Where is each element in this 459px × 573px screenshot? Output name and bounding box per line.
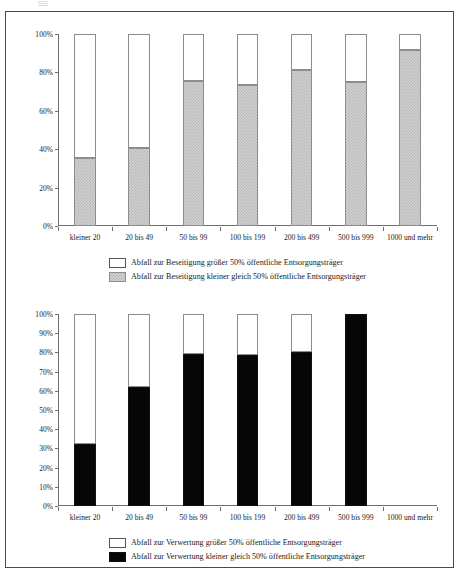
legend-item[interactable]: Abfall zur Beseitigung kleiner gleich 50…: [109, 270, 453, 283]
y-tick-label: 40%: [39, 145, 53, 154]
bar-slot[interactable]: [74, 34, 96, 226]
x-tick-mark: [383, 227, 384, 231]
bar-segment[interactable]: [183, 314, 205, 354]
bar-slot[interactable]: [128, 34, 150, 226]
x-tick-label: 1000 und mehr: [387, 233, 433, 242]
x-tick-label: 200 bis 499: [284, 233, 319, 242]
bar-slot[interactable]: [183, 34, 205, 226]
x-tick-mark: [220, 227, 221, 231]
x-tick-label: 20 bis 49: [125, 233, 153, 242]
legend-label: Abfall zur Verwertung größer 50% öffentl…: [131, 538, 342, 547]
page-scan-artifact: [38, 0, 48, 6]
bar-segment[interactable]: [128, 148, 150, 226]
stacked-bar[interactable]: [237, 314, 259, 506]
legend-swatch-black: [109, 552, 126, 562]
bar-slot[interactable]: [399, 34, 421, 226]
bar-segment[interactable]: [128, 34, 150, 148]
bar-slot[interactable]: [74, 314, 96, 506]
bar-slot[interactable]: [237, 34, 259, 226]
bar-segment[interactable]: [237, 34, 259, 85]
x-tick-label: 200 bis 499: [284, 513, 319, 522]
bar-segment[interactable]: [183, 34, 205, 81]
x-tick-label: 1000 und mehr: [387, 513, 433, 522]
bar-segment[interactable]: [237, 314, 259, 355]
x-tick-mark: [166, 227, 167, 231]
bar-slot[interactable]: [128, 314, 150, 506]
bar-segment[interactable]: [291, 70, 313, 226]
bar-slot[interactable]: [291, 314, 313, 506]
x-tick-label: 500 bis 999: [338, 233, 373, 242]
plot-area-verwertung: 0%10%20%30%40%50%60%70%80%90%100% kleine…: [58, 314, 437, 506]
stacked-bar[interactable]: [237, 34, 259, 226]
bar-slot[interactable]: [345, 314, 367, 506]
bar-slot[interactable]: [291, 34, 313, 226]
bar-segment[interactable]: [399, 50, 421, 226]
bar-group: [58, 314, 437, 506]
y-tick-mark: [55, 149, 59, 150]
y-tick-label: 50%: [39, 406, 53, 415]
legend-swatch-hatch: [109, 272, 126, 282]
x-tick-mark: [437, 227, 438, 231]
stacked-bar[interactable]: [291, 314, 313, 506]
legend-label: Abfall zur Beseitigung größer 50% öffent…: [131, 258, 343, 267]
x-tick-label: 20 bis 49: [125, 513, 153, 522]
bar-slot[interactable]: [345, 34, 367, 226]
stacked-bar[interactable]: [128, 34, 150, 226]
stacked-bar[interactable]: [183, 34, 205, 226]
y-tick-label: 70%: [39, 367, 53, 376]
bar-slot[interactable]: [237, 314, 259, 506]
bar-segment[interactable]: [183, 354, 205, 506]
plot-area-beseitigung: 0%20%40%60%80%100% kleiner 2020 bis 4950…: [58, 34, 437, 226]
legend-swatch-white: [109, 538, 126, 548]
bar-segment[interactable]: [74, 444, 96, 506]
legend-beseitigung: Abfall zur Beseitigung größer 50% öffent…: [6, 256, 453, 284]
bar-segment[interactable]: [183, 81, 205, 226]
x-tick-mark: [329, 227, 330, 231]
stacked-bar[interactable]: [128, 314, 150, 506]
y-tick-mark: [55, 72, 59, 73]
bar-segment[interactable]: [128, 314, 150, 387]
stacked-bar[interactable]: [291, 34, 313, 226]
bar-slot[interactable]: [399, 314, 421, 506]
bar-segment[interactable]: [399, 34, 421, 50]
stacked-bar[interactable]: [345, 314, 367, 506]
legend-item[interactable]: Abfall zur Beseitigung größer 50% öffent…: [109, 256, 453, 269]
bar-segment[interactable]: [291, 352, 313, 506]
x-tick-mark: [329, 507, 330, 511]
bar-segment[interactable]: [237, 85, 259, 226]
bar-slot[interactable]: [183, 314, 205, 506]
x-tick-mark: [58, 227, 59, 231]
y-tick-mark: [55, 314, 59, 315]
bar-segment[interactable]: [345, 34, 367, 82]
y-tick-mark: [55, 391, 59, 392]
bar-segment[interactable]: [237, 355, 259, 506]
stacked-bar[interactable]: [399, 34, 421, 226]
figure-page: 0%20%40%60%80%100% kleiner 2020 bis 4950…: [0, 0, 459, 573]
x-tick-mark: [275, 507, 276, 511]
bar-segment[interactable]: [345, 314, 367, 506]
stacked-bar[interactable]: [74, 314, 96, 506]
chart-beseitigung: 0%20%40%60%80%100% kleiner 2020 bis 4950…: [6, 18, 453, 290]
bar-segment[interactable]: [291, 34, 313, 70]
bar-segment[interactable]: [74, 34, 96, 158]
x-tick-mark: [275, 227, 276, 231]
x-tick-label: 50 bis 99: [179, 513, 207, 522]
bar-segment[interactable]: [291, 314, 313, 352]
bar-segment[interactable]: [74, 314, 96, 444]
y-tick-label: 60%: [39, 106, 53, 115]
legend-label: Abfall zur Verwertung kleiner gleich 50%…: [131, 552, 365, 561]
bar-segment[interactable]: [345, 82, 367, 226]
stacked-bar[interactable]: [345, 34, 367, 226]
legend-item[interactable]: Abfall zur Verwertung größer 50% öffentl…: [109, 536, 453, 549]
stacked-bar[interactable]: [74, 34, 96, 226]
y-tick-mark: [55, 468, 59, 469]
legend-swatch-white: [109, 258, 126, 268]
bar-segment[interactable]: [74, 158, 96, 226]
y-tick-mark: [55, 372, 59, 373]
legend-item[interactable]: Abfall zur Verwertung kleiner gleich 50%…: [109, 550, 453, 563]
y-tick-label: 20%: [39, 463, 53, 472]
stacked-bar[interactable]: [183, 314, 205, 506]
x-tick-mark: [112, 227, 113, 231]
x-tick-label: 100 bis 199: [230, 233, 265, 242]
bar-segment[interactable]: [128, 387, 150, 506]
